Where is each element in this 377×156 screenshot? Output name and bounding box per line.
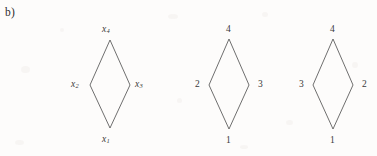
- vertex-label-top-base: 4: [226, 24, 231, 34]
- figure-canvas: b) x4 x2 x3 x1 4 2 3: [0, 0, 377, 156]
- scan-speckle: [286, 120, 293, 125]
- rhombus-shape-ordering-a: [190, 0, 280, 156]
- scan-speckle: [60, 28, 64, 32]
- vertex-label-left-base: 2: [195, 79, 200, 89]
- vertex-label-top-sub: 4: [106, 27, 109, 34]
- vertex-label-bottom: 1: [330, 136, 335, 146]
- vertex-label-right-base: 2: [362, 79, 367, 89]
- rhombus-shape-ordering-b: [294, 0, 377, 156]
- rhombus-diagram-variables: x4 x2 x3 x1: [70, 0, 160, 156]
- vertex-label-right: 3: [258, 80, 263, 90]
- vertex-label-left: 2: [195, 80, 200, 90]
- vertex-label-top-base: 4: [330, 24, 335, 34]
- rhombus-diagram-ordering-a: 4 2 3 1: [190, 0, 280, 156]
- vertex-label-left-sub: 2: [75, 82, 78, 89]
- vertex-label-bottom-base: 1: [226, 135, 231, 145]
- vertex-label-bottom-base: 1: [330, 135, 335, 145]
- vertex-label-bottom-sub: 1: [106, 137, 109, 144]
- rhombus-outline: [209, 39, 249, 129]
- rhombus-outline: [313, 39, 353, 129]
- vertex-label-right-base: 3: [258, 79, 263, 89]
- rhombus-outline: [90, 40, 130, 128]
- vertex-label-bottom: 1: [226, 136, 231, 146]
- scan-speckle: [15, 140, 24, 145]
- rhombus-diagram-ordering-b: 4 3 2 1: [294, 0, 377, 156]
- scan-speckle: [168, 14, 178, 19]
- vertex-label-right: x3: [135, 80, 143, 90]
- vertex-label-left: x2: [71, 80, 79, 90]
- rhombus-shape-variables: [70, 0, 160, 156]
- vertex-label-right-sub: 3: [139, 82, 142, 89]
- vertex-label-left-base: 3: [299, 79, 304, 89]
- vertex-label-left: 3: [299, 80, 304, 90]
- panel-label-b: b): [5, 6, 15, 18]
- vertex-label-top: 4: [330, 25, 335, 35]
- scan-speckle: [21, 66, 30, 73]
- vertex-label-bottom: x1: [102, 135, 110, 145]
- vertex-label-top: 4: [226, 25, 231, 35]
- vertex-label-top: x4: [102, 25, 110, 35]
- vertex-label-right: 2: [362, 80, 367, 90]
- scan-speckle: [177, 98, 182, 103]
